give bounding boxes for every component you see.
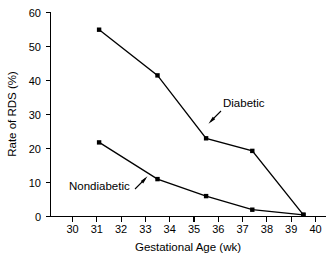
nondiabetic-series-label: Nondiabetic bbox=[69, 180, 130, 192]
diabetic-line bbox=[99, 30, 303, 215]
diabetic-point-3 bbox=[250, 149, 254, 153]
nondiabetic-point-2 bbox=[204, 194, 208, 198]
y-tick-label-30: 30 bbox=[29, 109, 41, 121]
y-axis-title: Rate of RDS (%) bbox=[6, 71, 18, 157]
x-axis-tick-labels: 30 31 32 33 34 35 36 37 38 39 40 bbox=[66, 223, 321, 235]
x-tick-label-40: 40 bbox=[309, 223, 321, 235]
diabetic-point-1 bbox=[155, 73, 159, 77]
y-axis-ticks bbox=[46, 13, 51, 217]
diabetic-point-0 bbox=[97, 28, 101, 32]
nondiabetic-point-4 bbox=[301, 213, 305, 217]
x-tick-label-33: 33 bbox=[139, 223, 151, 235]
diabetic-series-label: Diabetic bbox=[223, 97, 265, 109]
x-axis-ticks bbox=[73, 217, 316, 222]
x-tick-label-30: 30 bbox=[66, 223, 78, 235]
x-tick-label-37: 37 bbox=[236, 223, 248, 235]
nondiabetic-point-0 bbox=[97, 140, 101, 144]
nondiabetic-point-1 bbox=[155, 177, 159, 181]
x-tick-label-32: 32 bbox=[115, 223, 127, 235]
nondiabetic-line bbox=[99, 142, 303, 214]
nondiabetic-point-3 bbox=[250, 208, 254, 212]
annotation-diabetic: Diabetic bbox=[209, 97, 265, 124]
diabetic-point-2 bbox=[204, 136, 208, 140]
y-tick-label-50: 50 bbox=[29, 41, 41, 53]
x-tick-label-39: 39 bbox=[285, 223, 297, 235]
x-axis-title: Gestational Age (wk) bbox=[135, 241, 241, 253]
y-axis-tick-labels: 0 10 20 30 40 50 60 bbox=[29, 7, 41, 223]
chart-figure: 0 10 20 30 40 50 60 30 31 32 33 bbox=[0, 0, 331, 261]
y-tick-label-60: 60 bbox=[29, 7, 41, 19]
x-tick-label-38: 38 bbox=[261, 223, 273, 235]
y-tick-label-20: 20 bbox=[29, 143, 41, 155]
annotation-nondiabetic: Nondiabetic bbox=[69, 176, 148, 192]
y-tick-label-40: 40 bbox=[29, 75, 41, 87]
x-tick-label-35: 35 bbox=[188, 223, 200, 235]
x-tick-label-36: 36 bbox=[212, 223, 224, 235]
x-tick-label-34: 34 bbox=[164, 223, 176, 235]
y-tick-label-0: 0 bbox=[35, 211, 41, 223]
y-tick-label-10: 10 bbox=[29, 177, 41, 189]
x-tick-label-31: 31 bbox=[91, 223, 103, 235]
rate-of-rds-line-chart: 0 10 20 30 40 50 60 30 31 32 33 bbox=[0, 0, 331, 261]
